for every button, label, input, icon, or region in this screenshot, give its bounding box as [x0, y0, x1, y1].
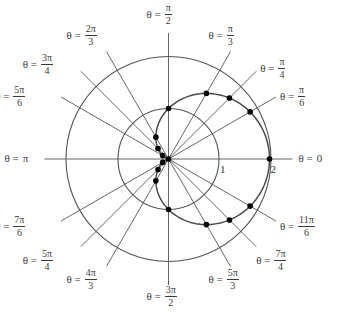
- ray-label-fraction: 11π6: [298, 215, 315, 238]
- fraction-numerator: 5π: [227, 268, 239, 280]
- fraction-numerator: 11π: [298, 215, 315, 227]
- fraction-numerator: 7π: [274, 249, 286, 261]
- ray-label: θ =π3: [209, 24, 234, 47]
- ray-theta-3-4: [81, 71, 169, 159]
- ray-label-fraction: 5π6: [13, 85, 25, 108]
- fraction-numerator: 2π: [85, 24, 97, 36]
- ray-label: θ =3π2: [147, 285, 177, 308]
- fraction-denominator: 3: [230, 280, 235, 291]
- fraction-denominator: 4: [278, 261, 283, 272]
- ray-theta-2-3: [107, 52, 169, 159]
- ray-label-fraction: 7π6: [13, 215, 25, 238]
- ray-theta-5-4: [81, 159, 169, 247]
- ray-label-value: π: [23, 153, 29, 164]
- ray-label: θ =π2: [147, 3, 172, 26]
- ray-theta-7-4: [169, 159, 257, 247]
- ray-label-prefix: θ =: [256, 255, 270, 266]
- ray-label-prefix: θ =: [147, 9, 161, 20]
- data-point: [155, 146, 161, 152]
- fraction-denominator: 2: [166, 15, 171, 26]
- ray-label: θ =3π4: [23, 53, 53, 76]
- ray-label: θ =2π3: [67, 24, 97, 47]
- ray-label: θ =π: [5, 153, 29, 164]
- ray-label: θ =π6: [280, 85, 305, 108]
- data-point: [160, 160, 166, 166]
- fraction-denominator: 4: [45, 65, 50, 76]
- ray-label-fraction: 5π3: [227, 268, 239, 291]
- ray-label-fraction: 3π2: [165, 285, 177, 308]
- ray-label: θ =5π3: [209, 268, 239, 291]
- radius-tick-label: 2: [271, 163, 277, 175]
- ray-label: θ =5π6: [0, 85, 25, 108]
- ray-label: θ =5π4: [23, 249, 53, 272]
- ray-theta-5-3: [169, 159, 231, 266]
- ray-label-value: 0: [317, 153, 323, 164]
- ray-label: θ =0: [299, 153, 323, 164]
- fraction-denominator: 4: [45, 261, 50, 272]
- ray-label: θ =7π4: [256, 249, 286, 272]
- fraction-denominator: 6: [17, 227, 22, 238]
- data-point: [160, 153, 166, 159]
- fraction-numerator: 7π: [13, 215, 25, 227]
- data-point: [166, 156, 172, 162]
- ray-label-fraction: π6: [298, 85, 305, 108]
- ray-label: θ =7π6: [0, 215, 25, 238]
- ray-label-fraction: π3: [227, 24, 234, 47]
- data-point: [267, 156, 273, 162]
- fraction-numerator: π: [278, 57, 285, 69]
- ray-label-prefix: θ =: [0, 91, 9, 102]
- data-point: [227, 95, 233, 101]
- fraction-numerator: 3π: [165, 285, 177, 297]
- ray-label-prefix: θ =: [5, 153, 19, 164]
- ray-label-fraction: 5π4: [41, 249, 53, 272]
- ray-label-prefix: θ =: [23, 255, 37, 266]
- fraction-denominator: 2: [168, 297, 173, 308]
- data-point: [153, 134, 159, 140]
- ray-label: θ =11π6: [280, 215, 315, 238]
- ray-label-prefix: θ =: [280, 221, 294, 232]
- ray-label-fraction: π2: [165, 3, 172, 26]
- fraction-numerator: π: [298, 85, 305, 97]
- ray-label-prefix: θ =: [67, 274, 81, 285]
- ray-theta-1-3: [169, 52, 231, 159]
- ray-theta-5-6: [61, 97, 168, 159]
- data-point: [155, 167, 161, 173]
- fraction-numerator: 3π: [41, 53, 53, 65]
- fraction-denominator: 6: [304, 227, 309, 238]
- ray-theta-1-4: [169, 71, 257, 159]
- data-point: [227, 217, 233, 223]
- ray-theta-1-6: [169, 97, 276, 159]
- ray-label-fraction: 2π3: [85, 24, 97, 47]
- fraction-denominator: 3: [88, 36, 93, 47]
- fraction-numerator: 5π: [41, 249, 53, 261]
- fraction-denominator: 6: [299, 97, 304, 108]
- fraction-numerator: 4π: [85, 268, 97, 280]
- fraction-denominator: 6: [17, 97, 22, 108]
- ray-label-prefix: θ =: [299, 153, 313, 164]
- data-point: [204, 91, 210, 97]
- ray-label-prefix: θ =: [67, 30, 81, 41]
- ray-label-fraction: 7π4: [274, 249, 286, 272]
- ray-label-prefix: θ =: [0, 221, 9, 232]
- ray-label-prefix: θ =: [147, 291, 161, 302]
- fraction-numerator: π: [227, 24, 234, 36]
- data-point: [204, 222, 210, 228]
- fraction-numerator: 5π: [13, 85, 25, 97]
- ray-label-prefix: θ =: [280, 91, 294, 102]
- ray-label-fraction: 3π4: [41, 53, 53, 76]
- ray-label-prefix: θ =: [23, 59, 37, 70]
- ray-label-fraction: π4: [278, 57, 285, 80]
- radius-tick-label: 1: [220, 163, 226, 175]
- ray-label-fraction: 4π3: [85, 268, 97, 291]
- ray-label: θ =4π3: [67, 268, 97, 291]
- data-point: [166, 106, 172, 112]
- fraction-denominator: 4: [279, 69, 284, 80]
- fraction-denominator: 3: [88, 280, 93, 291]
- ray-theta-7-6: [61, 159, 168, 221]
- data-point: [153, 178, 159, 184]
- ray-label: θ =π4: [260, 57, 285, 80]
- ray-label-prefix: θ =: [209, 30, 223, 41]
- ray-label-prefix: θ =: [209, 274, 223, 285]
- fraction-denominator: 3: [228, 36, 233, 47]
- ray-label-prefix: θ =: [260, 63, 274, 74]
